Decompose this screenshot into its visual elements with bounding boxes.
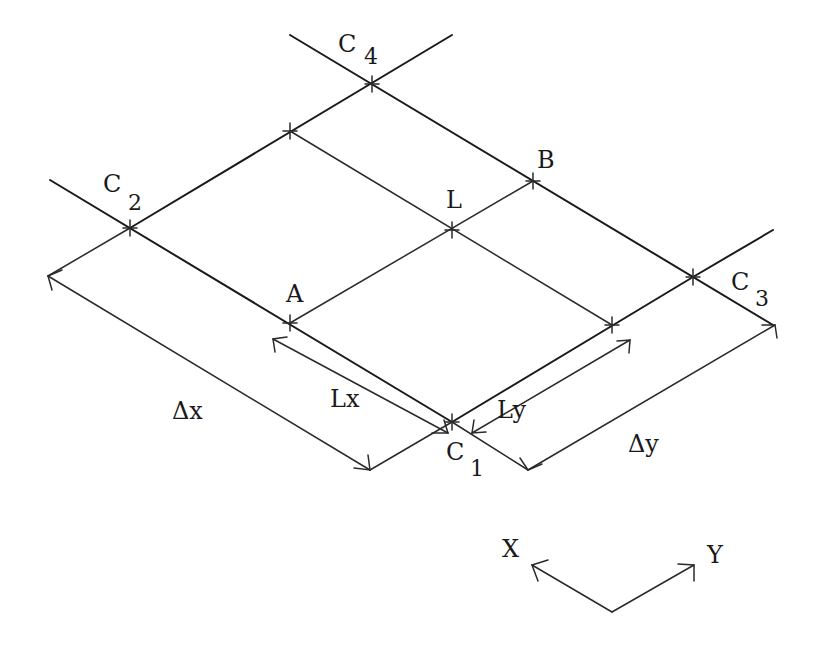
label-ly: Ly (497, 396, 527, 424)
label-c2-sub: 2 (128, 190, 142, 215)
dim-lx-line (273, 339, 448, 433)
label-c4: C (338, 30, 356, 58)
dimension-labels: Δx Δy Lx Ly (172, 385, 659, 458)
label-c1-sub: 1 (470, 456, 484, 481)
axis-y-arrow (612, 565, 694, 612)
label-l: L (446, 186, 462, 214)
line-a-l-b (290, 181, 533, 323)
label-b: B (537, 146, 555, 174)
edge-c2-extension (48, 228, 130, 276)
axis-x-arrow (532, 565, 612, 612)
axis-y-label: Y (706, 541, 724, 569)
node-markers (123, 76, 700, 430)
axis-x-label: X (502, 535, 519, 563)
node-c3 (686, 269, 700, 285)
edge-c2-c1 (50, 180, 452, 422)
node-mid-right (605, 317, 619, 333)
label-dx: Δx (172, 397, 203, 425)
label-c1: C (446, 438, 464, 466)
node-l (445, 222, 459, 238)
label-dy: Δy (628, 430, 659, 458)
edge-c1-c3 (452, 277, 693, 422)
dimension-lines (48, 270, 777, 470)
node-b (526, 173, 540, 189)
label-c3-sub: 3 (755, 286, 769, 311)
node-c4 (365, 76, 379, 92)
interior-lines (290, 131, 612, 325)
dim-ly-line (472, 340, 630, 433)
label-c2: C (103, 170, 121, 198)
axis-indicator: X Y (502, 535, 724, 612)
node-mid-top (283, 123, 297, 139)
line-mid-x (290, 131, 612, 325)
label-a: A (285, 280, 304, 308)
label-c4-sub: 4 (364, 44, 378, 69)
dim-lx-arrow-start (273, 337, 287, 352)
cell-edges (48, 35, 773, 422)
node-a (283, 315, 297, 331)
node-c2 (123, 220, 137, 236)
label-lx: Lx (330, 385, 360, 413)
grid-diagram: C 4 C 2 C 3 C 1 A B L Δx Δy Lx Ly X Y (0, 0, 816, 648)
label-c3: C (731, 268, 749, 296)
